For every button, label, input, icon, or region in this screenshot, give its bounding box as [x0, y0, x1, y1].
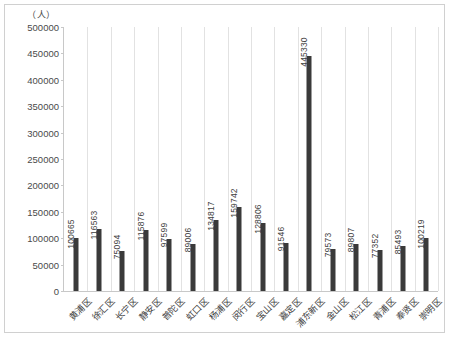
bar-value-label: 85493: [393, 230, 403, 255]
x-axis-label: 普陀区: [159, 295, 187, 323]
y-axis-tick-label: 150000: [27, 206, 59, 217]
bar-value-label: 159742: [229, 188, 239, 218]
bar-value-label: 75094: [112, 235, 122, 260]
bar-slot[interactable]: 115876: [134, 27, 157, 291]
y-axis-unit-caption: （人）: [27, 8, 56, 21]
category-separator: [438, 27, 439, 291]
x-axis-label: 徐汇区: [89, 295, 117, 323]
y-axis-tick-label: 450000: [27, 48, 59, 59]
bar-value-label: 134817: [206, 201, 216, 231]
y-axis-tick-label: 0: [54, 286, 59, 297]
bar-slot[interactable]: 89807: [345, 27, 368, 291]
bar-slot[interactable]: 100219: [415, 27, 438, 291]
bar-value-label: 100219: [416, 219, 426, 249]
bar-slot[interactable]: 77352: [368, 27, 391, 291]
y-axis-tick-label: 100000: [27, 233, 59, 244]
x-axis-label: 金山区: [323, 295, 351, 323]
bar-value-label: 89006: [183, 228, 193, 253]
x-axis-label: 闵行区: [229, 295, 257, 323]
bar-slot[interactable]: 445330: [298, 27, 321, 291]
bar-slot[interactable]: 97599: [158, 27, 181, 291]
bar-slot[interactable]: 159742: [228, 27, 251, 291]
x-axis-label: 杨浦区: [206, 295, 234, 323]
plot-area: 0500001000001500002000002500003000003500…: [63, 27, 438, 292]
x-axis-label: 静安区: [136, 295, 164, 323]
x-axis-label: 黄浦区: [66, 295, 94, 323]
x-axis-label: 奉贤区: [393, 295, 421, 323]
bar-value-label: 89807: [346, 227, 356, 252]
x-axis-label: 青浦区: [369, 295, 397, 323]
bar-slot[interactable]: 91546: [274, 27, 297, 291]
bar-value-label: 97599: [159, 223, 169, 248]
x-axis-label: 松江区: [346, 295, 374, 323]
bar-slot[interactable]: 85493: [391, 27, 414, 291]
bar-value-label: 115876: [136, 211, 146, 240]
chart-container: （人） 050000100000150000200000250000300000…: [4, 4, 445, 333]
bar-slot[interactable]: 100665: [64, 27, 87, 291]
x-axis-label: 宝山区: [253, 295, 281, 323]
bar-value-label: 91546: [276, 226, 286, 251]
bar-value-label: 79573: [323, 233, 333, 258]
bar-value-label: 116563: [89, 211, 99, 240]
bar-value-label: 77352: [370, 234, 380, 259]
bar-value-label: 100665: [66, 219, 76, 249]
x-axis-label: 崇明区: [416, 295, 444, 323]
y-axis-tick-label: 300000: [27, 127, 59, 138]
bar-slot[interactable]: 134817: [204, 27, 227, 291]
bar-value-label: 128806: [253, 204, 263, 234]
y-axis-tick-mark: [61, 291, 64, 292]
bar-slot[interactable]: 75094: [111, 27, 134, 291]
bar[interactable]: [307, 56, 312, 291]
y-axis-tick-label: 250000: [27, 154, 59, 165]
y-axis-tick-label: 200000: [27, 180, 59, 191]
x-axis-label: 虹口区: [182, 295, 210, 323]
bar-value-label: 445330: [299, 37, 309, 67]
y-axis-tick-label: 350000: [27, 101, 59, 112]
bar-slot[interactable]: 128806: [251, 27, 274, 291]
y-axis-tick-label: 400000: [27, 74, 59, 85]
x-axis-label: 长宁区: [112, 295, 140, 323]
y-axis-tick-label: 50000: [33, 259, 59, 270]
y-axis-tick-label: 500000: [27, 22, 59, 33]
bar-slot[interactable]: 89006: [181, 27, 204, 291]
bar-slot[interactable]: 79573: [321, 27, 344, 291]
bar-slot[interactable]: 116563: [87, 27, 110, 291]
bar[interactable]: [237, 207, 242, 291]
